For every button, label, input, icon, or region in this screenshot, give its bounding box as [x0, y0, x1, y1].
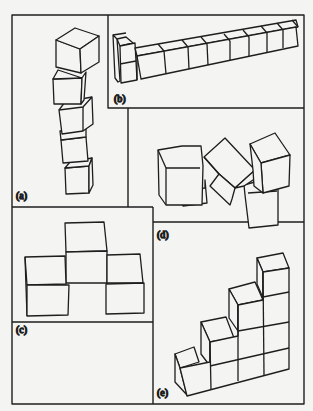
panel-d-cubes	[158, 133, 290, 228]
panel-b-label: (b)	[114, 93, 126, 105]
panel-e-label: (e)	[157, 387, 168, 399]
cube-figure: (a)	[0, 0, 313, 411]
panel-b-row	[113, 20, 298, 83]
panel-a-label: (a)	[16, 190, 27, 202]
figure-canvas: (a)	[0, 0, 313, 411]
panel-c-cubes	[25, 222, 144, 316]
panel-c-label: (c)	[16, 324, 27, 336]
panel-e-staircase	[175, 253, 289, 396]
panel-a-tower	[53, 28, 99, 194]
panel-d-label: (d)	[157, 229, 169, 241]
